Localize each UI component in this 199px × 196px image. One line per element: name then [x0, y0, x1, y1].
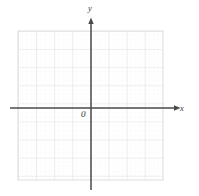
origin-label: 0	[81, 110, 86, 119]
coordinate-plane	[0, 0, 199, 196]
x-axis-label: x	[180, 104, 184, 113]
y-axis-label: y	[88, 4, 92, 13]
coordinate-grid-figure: x y 0	[0, 0, 199, 196]
y-axis-arrowhead	[88, 18, 93, 25]
